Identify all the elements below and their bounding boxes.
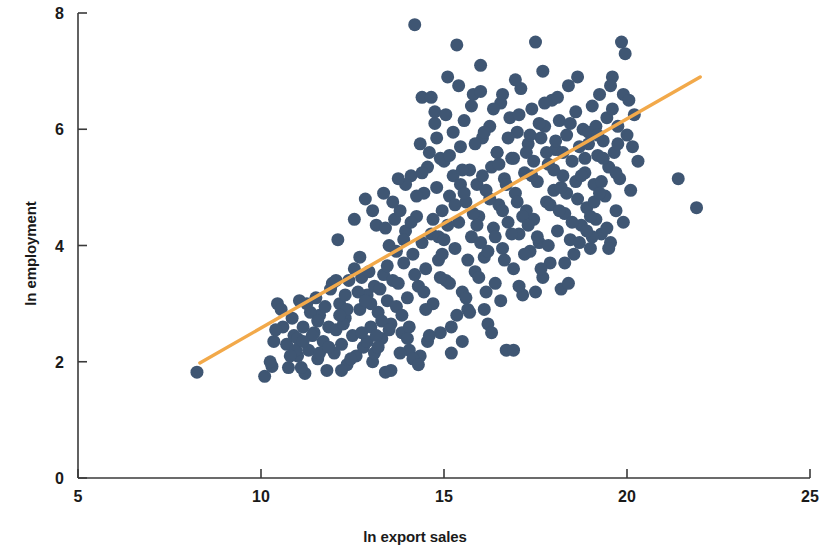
scatter-point xyxy=(533,117,546,130)
scatter-point xyxy=(584,242,597,255)
scatter-point xyxy=(593,88,606,101)
scatter-point xyxy=(414,137,427,150)
scatter-point xyxy=(353,251,366,264)
scatter-point xyxy=(540,146,553,159)
scatter-point xyxy=(474,236,487,249)
scatter-point xyxy=(595,175,608,188)
scatter-point xyxy=(430,181,443,194)
scatter-point xyxy=(551,224,564,237)
scatter-point xyxy=(626,140,639,153)
scatter-point xyxy=(445,320,458,333)
scatter-point xyxy=(496,88,509,101)
scatter-point xyxy=(491,146,504,159)
scatter-point xyxy=(459,291,472,304)
scatter-point xyxy=(423,329,436,342)
scatter-point xyxy=(505,227,518,240)
scatter-point xyxy=(672,172,685,185)
scatter-point xyxy=(549,134,562,147)
scatter-point xyxy=(502,216,515,229)
x-tick-label: 25 xyxy=(801,488,819,505)
scatter-point xyxy=(461,254,474,267)
scatter-point xyxy=(348,213,361,226)
scatter-point xyxy=(373,283,386,296)
scatter-point xyxy=(379,222,392,235)
scatter-point xyxy=(428,105,441,118)
scatter-point xyxy=(335,364,348,377)
scatter-point xyxy=(564,117,577,130)
scatter-point xyxy=(297,335,310,348)
scatter-point xyxy=(509,73,522,86)
scatter-point xyxy=(434,271,447,284)
scatter-point xyxy=(335,338,348,351)
y-tick-label: 6 xyxy=(55,121,64,138)
scatter-point xyxy=(617,216,630,229)
scatter-point xyxy=(384,364,397,377)
scatter-point xyxy=(359,294,372,307)
scatter-point xyxy=(573,236,586,249)
scatter-point xyxy=(269,323,282,336)
scatter-point xyxy=(597,152,610,165)
scatter-point xyxy=(450,38,463,51)
scatter-point xyxy=(410,190,423,203)
scatter-point xyxy=(525,102,538,115)
scatter-point xyxy=(456,335,469,348)
scatter-point xyxy=(319,300,332,313)
scatter-point xyxy=(392,172,405,185)
scatter-point xyxy=(408,268,421,281)
scatter-point xyxy=(485,326,498,339)
scatter-point xyxy=(562,277,575,290)
scatter-point xyxy=(412,358,425,371)
scatter-point xyxy=(381,259,394,272)
scatter-point xyxy=(366,204,379,217)
plot-canvas: 510152025 02468 xyxy=(0,0,830,557)
scatter-point xyxy=(578,152,591,165)
scatter-point xyxy=(430,131,443,144)
scatter-point xyxy=(472,271,485,284)
scatter-point xyxy=(284,349,297,362)
scatter-point xyxy=(377,187,390,200)
scatter-point xyxy=(333,309,346,322)
scatter-point xyxy=(522,219,535,232)
scatter-point xyxy=(282,361,295,374)
scatter-point xyxy=(496,204,509,217)
scatter-point xyxy=(427,213,440,226)
scatter-point xyxy=(428,117,441,130)
y-tick-label-group: 02468 xyxy=(55,5,64,487)
scatter-point xyxy=(436,248,449,261)
scatter-point xyxy=(507,344,520,357)
scatter-point xyxy=(593,187,606,200)
scatter-point xyxy=(487,102,500,115)
scatter-point xyxy=(405,216,418,229)
scatter-point xyxy=(536,65,549,78)
scatter-point xyxy=(395,309,408,322)
scatter-point xyxy=(534,131,547,144)
scatter-point xyxy=(454,140,467,153)
scatter-point xyxy=(524,129,537,142)
scatter-point xyxy=(344,352,357,365)
scatter-point xyxy=(560,129,573,142)
scatter-point xyxy=(478,126,491,139)
scatter-point xyxy=(359,193,372,206)
scatter-point xyxy=(513,108,526,121)
scatter-point xyxy=(610,204,623,217)
scatter-point xyxy=(602,242,615,255)
y-tick-label: 0 xyxy=(55,470,64,487)
scatter-point xyxy=(507,152,520,165)
scatter-point xyxy=(425,91,438,104)
scatter-point xyxy=(434,326,447,339)
scatter-points-layer xyxy=(190,18,703,383)
scatter-point xyxy=(610,166,623,179)
scatter-point xyxy=(401,332,414,345)
y-tick-label: 2 xyxy=(55,354,64,371)
scatter-point xyxy=(447,126,460,139)
scatter-point xyxy=(584,210,597,223)
scatter-point xyxy=(438,233,451,246)
scatter-point xyxy=(295,361,308,374)
scatter-point xyxy=(575,169,588,182)
scatter-point xyxy=(331,233,344,246)
scatter-point xyxy=(322,341,335,354)
scatter-point xyxy=(518,248,531,261)
scatter-point xyxy=(555,181,568,194)
scatter-point xyxy=(478,303,491,316)
scatter-point xyxy=(448,242,461,255)
